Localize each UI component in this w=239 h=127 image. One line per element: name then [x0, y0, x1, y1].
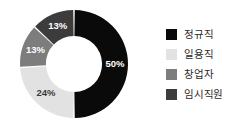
donut-value-label: 13%: [26, 44, 46, 55]
legend-item-label: 창업자: [184, 69, 213, 80]
donut-value-label: 50%: [106, 58, 126, 69]
legend-swatch-icon: [166, 69, 177, 80]
legend-item-label: 일용직: [184, 49, 213, 60]
legend-item[interactable]: 창업자: [166, 64, 238, 84]
donut-chart-figure: 50%24%13%13% 정규직일용직창업자임시직원: [0, 0, 239, 127]
donut-value-label: 24%: [36, 87, 56, 98]
legend-swatch-icon: [166, 29, 177, 40]
legend-item-label: 정규직: [184, 29, 213, 40]
legend-swatch-icon: [166, 49, 177, 60]
donut-value-label: 13%: [48, 20, 68, 31]
legend-item-label: 임시직원: [184, 89, 223, 100]
legend-swatch-icon: [166, 89, 177, 100]
legend-item[interactable]: 정규직: [166, 24, 238, 44]
donut-svg: 50%24%13%13%: [18, 8, 130, 120]
donut-chart-plot: 50%24%13%13%: [18, 8, 130, 120]
legend-item[interactable]: 일용직: [166, 44, 238, 64]
legend-item[interactable]: 임시직원: [166, 84, 238, 104]
chart-legend: 정규직일용직창업자임시직원: [166, 24, 238, 104]
